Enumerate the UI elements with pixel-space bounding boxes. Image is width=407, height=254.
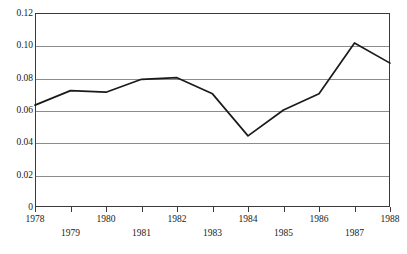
gridline [36, 176, 389, 177]
y-axis-tick-label: 0.06 [0, 105, 33, 115]
line-chart: 00.020.040.060.080.100.12 19781979198019… [0, 0, 407, 254]
x-axis-tick-label: 1978 [26, 214, 45, 225]
x-axis-tick [319, 207, 320, 212]
gridline [36, 143, 389, 144]
x-axis-tick-label: 1983 [203, 228, 222, 239]
x-axis-tick-label: 1981 [132, 228, 151, 239]
y-axis-tick-label: 0.10 [0, 40, 33, 50]
x-axis-tick-label: 1979 [61, 228, 80, 239]
x-axis-tick-label: 1985 [274, 228, 293, 239]
gridline [36, 111, 389, 112]
plot-area [35, 13, 390, 207]
x-axis-tick-label: 1986 [310, 214, 329, 225]
x-axis-tick [284, 207, 285, 212]
x-axis-tick [71, 207, 72, 212]
x-axis-tick-label: 1987 [345, 228, 364, 239]
gridline [36, 79, 389, 80]
x-axis-tick-label: 1982 [168, 214, 187, 225]
x-axis-tick [142, 207, 143, 212]
x-axis-tick [35, 207, 36, 212]
x-axis-tick [177, 207, 178, 212]
x-axis-tick [355, 207, 356, 212]
y-axis-tick-label: 0 [0, 202, 33, 212]
x-axis-tick-label: 1988 [381, 214, 400, 225]
y-axis-tick-label: 0.12 [0, 8, 33, 18]
y-axis-tick-label: 0.04 [0, 137, 33, 147]
chart-title-clipped [0, 0, 407, 3]
x-axis-tick [390, 207, 391, 212]
x-axis-tick-label: 1984 [239, 214, 258, 225]
x-axis-tick [213, 207, 214, 212]
gridline [36, 46, 389, 47]
y-axis-tick-label: 0.02 [0, 170, 33, 180]
y-axis-tick-label: 0.08 [0, 73, 33, 83]
x-axis-tick [248, 207, 249, 212]
x-axis-tick [106, 207, 107, 212]
x-axis-tick-label: 1980 [97, 214, 116, 225]
